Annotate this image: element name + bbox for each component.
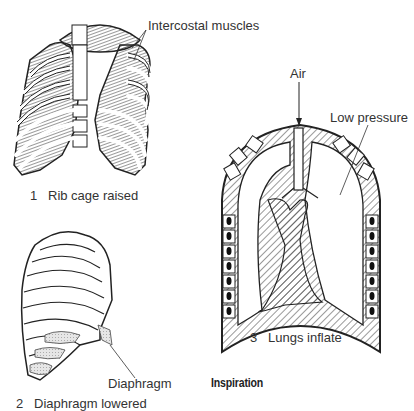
panel-2-caption: Diaphragm lowered	[34, 396, 147, 411]
rib-cage-side-illustration	[22, 232, 135, 380]
rib-cage-front-illustration	[14, 25, 150, 175]
low-pressure-label: Low pressure	[330, 110, 408, 125]
panel-3-caption: Lungs inflate	[268, 330, 342, 345]
panel-1-number: 1	[30, 188, 37, 203]
figure-title: Inspiration	[211, 376, 263, 390]
air-label: Air	[290, 66, 306, 81]
intercostal-muscles-label: Intercostal muscles	[148, 18, 259, 33]
panel-2-number: 2	[16, 396, 23, 411]
panel-1-caption: Rib cage raised	[48, 188, 138, 203]
diaphragm-label: Diaphragm	[108, 376, 172, 391]
panel-3-number: 3	[250, 330, 257, 345]
